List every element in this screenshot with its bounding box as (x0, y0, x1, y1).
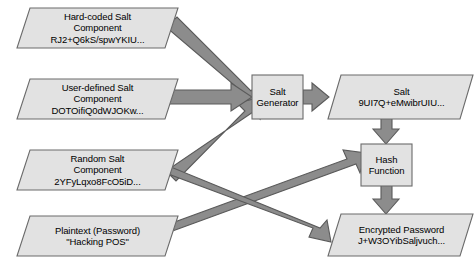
diagram-canvas: .shape { fill:#e2e2e2; stroke:#6b6b6b; s… (0, 0, 475, 259)
node-salt-generator[interactable] (252, 75, 303, 119)
edge-plaintext-to-encrypted (167, 150, 366, 233)
edge-generator-to-salt (303, 83, 329, 111)
node-encrypted-password[interactable] (328, 214, 473, 256)
edge-random-to-generator (166, 98, 260, 181)
node-salt-output[interactable] (328, 75, 473, 119)
diagram-graphics: .shape { fill:#e2e2e2; stroke:#6b6b6b; s… (0, 0, 475, 259)
node-plaintext-password[interactable] (17, 216, 178, 256)
edge-hash-to-encrypted (373, 185, 399, 214)
node-hash-function[interactable] (361, 144, 412, 186)
node-random-salt[interactable] (17, 150, 178, 190)
node-hard-coded-salt[interactable] (17, 8, 178, 48)
node-user-defined-salt[interactable] (17, 79, 178, 119)
